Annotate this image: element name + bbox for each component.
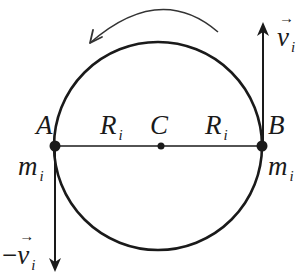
- velocity-up-sub: i: [291, 39, 295, 55]
- mass-a-sub: i: [40, 168, 44, 184]
- mass-a-main: m: [18, 151, 38, 181]
- radius-left-main: R: [100, 110, 117, 140]
- velocity-down-sub: i: [31, 257, 35, 273]
- radius-left-label: Ri: [100, 112, 123, 139]
- radius-left-sub: i: [119, 127, 123, 143]
- radius-right-main: R: [205, 110, 222, 140]
- center-c-label: C: [150, 112, 168, 139]
- rotating-masses-diagram: [0, 0, 300, 280]
- velocity-down-minus: −: [2, 240, 17, 270]
- velocity-up-label: vi: [277, 24, 295, 51]
- radius-right-sub: i: [224, 127, 228, 143]
- mass-b-label: mi: [268, 153, 294, 180]
- mass-b-main: m: [268, 151, 288, 181]
- center-c-text: C: [150, 110, 168, 140]
- velocity-up-main: v: [277, 24, 289, 51]
- center-c-dot: [158, 143, 165, 150]
- point-a-label: A: [36, 112, 53, 139]
- point-a-text: A: [36, 110, 53, 140]
- mass-a-label: mi: [18, 153, 44, 180]
- mass-b-sub: i: [290, 168, 294, 184]
- velocity-down-label: −vi: [2, 242, 35, 269]
- point-b-label: B: [268, 112, 285, 139]
- rotation-arrow: [90, 9, 218, 43]
- velocity-down-main: v: [17, 242, 29, 269]
- radius-right-label: Ri: [205, 112, 228, 139]
- point-b-text: B: [268, 110, 285, 140]
